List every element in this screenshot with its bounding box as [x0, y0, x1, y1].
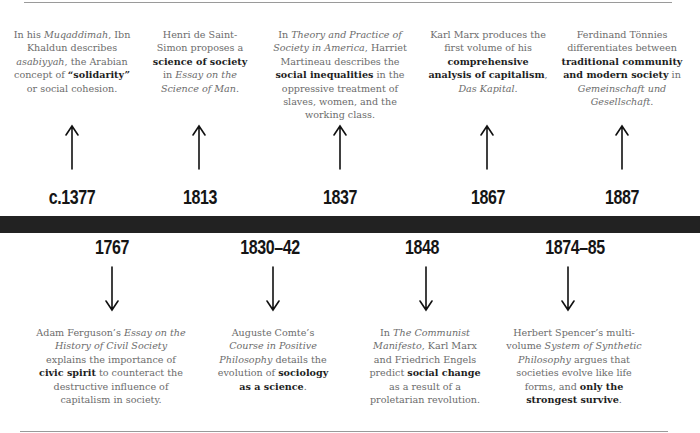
year-label-1867: 1867 [456, 186, 520, 209]
up-arrow-icon [332, 124, 348, 170]
body-text: Auguste Comte’s [232, 327, 315, 338]
emphasis-text: civic spirit [39, 367, 96, 378]
body-text: . [515, 83, 518, 94]
event-description-1874-85: Herbert Spencer’s multi-volume System of… [500, 326, 648, 406]
up-arrow-icon [64, 124, 80, 170]
body-text: . [304, 381, 307, 392]
body-text: , [545, 69, 548, 80]
body-text: In [380, 327, 393, 338]
year-label-1830-42: 1830–42 [230, 236, 310, 259]
emphasis-text: comprehensive analysis of capitalism [428, 56, 544, 80]
body-text: Adam Ferguson’s [36, 327, 124, 338]
down-arrow-icon [265, 266, 281, 312]
body-text: . [236, 83, 239, 94]
year-label-1848: 1848 [390, 236, 454, 259]
body-text: In his [14, 29, 44, 40]
body-text: Ferdinand Tönnies differentiates between [567, 29, 677, 53]
up-arrow-icon [479, 124, 495, 170]
body-text: Karl Marx produces the first volume of h… [430, 29, 546, 53]
body-text: or social cohesion. [27, 83, 117, 94]
event-description-1848: In The Communist Manifesto, Karl Marx an… [366, 326, 484, 406]
body-text: . [650, 96, 653, 107]
year-label-1837: 1837 [308, 186, 372, 209]
event-description-1767: Adam Ferguson’s Essay on the History of … [36, 326, 186, 406]
down-arrow-icon [104, 266, 120, 312]
event-description-1837: In Theory and Practice of Society in Ame… [268, 28, 412, 122]
top-divider [24, 2, 672, 3]
event-description-1867: Karl Marx produces the first volume of h… [428, 28, 548, 95]
event-description-1813: Henri de Saint-Simon proposes a science … [148, 28, 252, 95]
year-label-1767: 1767 [80, 236, 144, 259]
title-text: asabiyyah [16, 56, 64, 67]
body-text: in [163, 69, 175, 80]
emphasis-text: science of society [153, 56, 248, 67]
down-arrow-icon [418, 266, 434, 312]
body-text: . [619, 394, 622, 405]
timeline-bar [0, 216, 700, 233]
year-label-1887: 1887 [590, 186, 654, 209]
event-description-1887: Ferdinand Tönnies differentiates between… [556, 28, 688, 108]
body-text: as a result of a proletarian revolution. [370, 381, 480, 405]
event-description-1830-42: Auguste Comte’s Course in Positive Philo… [216, 326, 330, 393]
year-label-c1377: c.1377 [40, 186, 104, 209]
bottom-divider [20, 431, 668, 432]
up-arrow-icon [614, 124, 630, 170]
title-text: Muqaddimah [44, 29, 108, 40]
emphasis-text: traditional community and modern society [562, 56, 683, 80]
body-text: In [278, 29, 291, 40]
down-arrow-icon [560, 266, 576, 312]
emphasis-text: “solidarity” [68, 69, 130, 80]
body-text: in [669, 69, 681, 80]
body-text: Henri de Saint-Simon proposes a [157, 29, 243, 53]
emphasis-text: social inequalities [275, 69, 373, 80]
year-label-1813: 1813 [168, 186, 232, 209]
event-description-c1377: In his Muqaddimah, Ibn Khaldun describes… [12, 28, 132, 95]
body-text: explains the importance of [46, 354, 176, 365]
emphasis-text: social change [407, 367, 480, 378]
up-arrow-icon [191, 124, 207, 170]
year-label-1874-85: 1874–85 [533, 236, 616, 259]
title-text: Das Kapital [458, 83, 514, 94]
